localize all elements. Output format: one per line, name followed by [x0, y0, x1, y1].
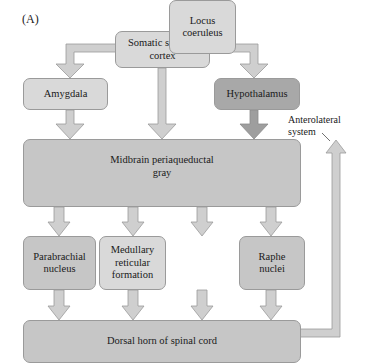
node-raphe-nuclei: Raphe nuclei: [239, 236, 305, 290]
arrow-parabrachial-dorsal: [48, 290, 70, 320]
arrow-pag-medullary: [122, 207, 144, 236]
node-parabrachial-nucleus: Parabrachial nucleus: [23, 236, 96, 290]
node-locus-coeruleus: Locus coeruleus: [169, 0, 236, 54]
arrow-locus-dorsal: [191, 290, 213, 320]
node-hypothalamus: Hypothalamus: [214, 78, 300, 110]
node-midbrain-periaqueductal-gray: Midbrain periaqueductal gray: [23, 139, 301, 207]
anterolateral-system-arrow: [300, 140, 346, 337]
node-dorsal-horn-spinal-cord: Dorsal horn of spinal cord: [23, 320, 301, 363]
arrow-hypothalamus-pag: [240, 110, 268, 139]
node-medullary-reticular-formation: Medullary reticular formation: [99, 236, 166, 290]
node-amygdala: Amygdala: [23, 78, 108, 110]
arrow-amygdala-pag: [56, 110, 84, 139]
anterolateral-system-label: Anterolateral system: [288, 114, 341, 138]
arrow-raphe-dorsal: [260, 290, 282, 320]
arrow-cortex-pag: [148, 68, 176, 139]
arrow-pag-locus: [191, 207, 213, 236]
arrow-medullary-dorsal: [122, 290, 144, 320]
arrow-cortex-amygdala: [56, 44, 116, 78]
arrow-pag-raphe: [260, 207, 282, 236]
arrow-pag-parabrachial: [48, 207, 70, 236]
